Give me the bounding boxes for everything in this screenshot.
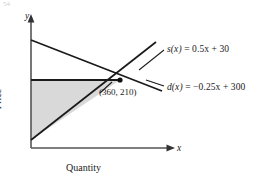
supply-demand-figure: 54 s(x) = 0.5x + 30 d(x) = −0.25x + 300 (0, 0, 263, 184)
supply-function-equation: = 0.5x + 30 (184, 44, 229, 54)
x-axis-title: Quantity (66, 163, 101, 173)
y-axis-symbol-label: y (25, 12, 29, 22)
supply-function-label: s(x) = 0.5x + 30 (167, 45, 229, 55)
demand-function-name: d(x) (167, 82, 183, 92)
demand-function-label: d(x) = −0.25x + 300 (167, 83, 245, 93)
equilibrium-point-label: (360, 210) (99, 88, 137, 97)
y-axis-title: Price (0, 89, 3, 110)
supply-function-name: s(x) (167, 44, 182, 54)
x-axis-symbol-label: x (177, 144, 181, 154)
equilibrium-point-marker (117, 77, 122, 82)
demand-function-equation: = −0.25x + 300 (185, 82, 245, 92)
x-axis-arrow-icon (167, 145, 176, 152)
